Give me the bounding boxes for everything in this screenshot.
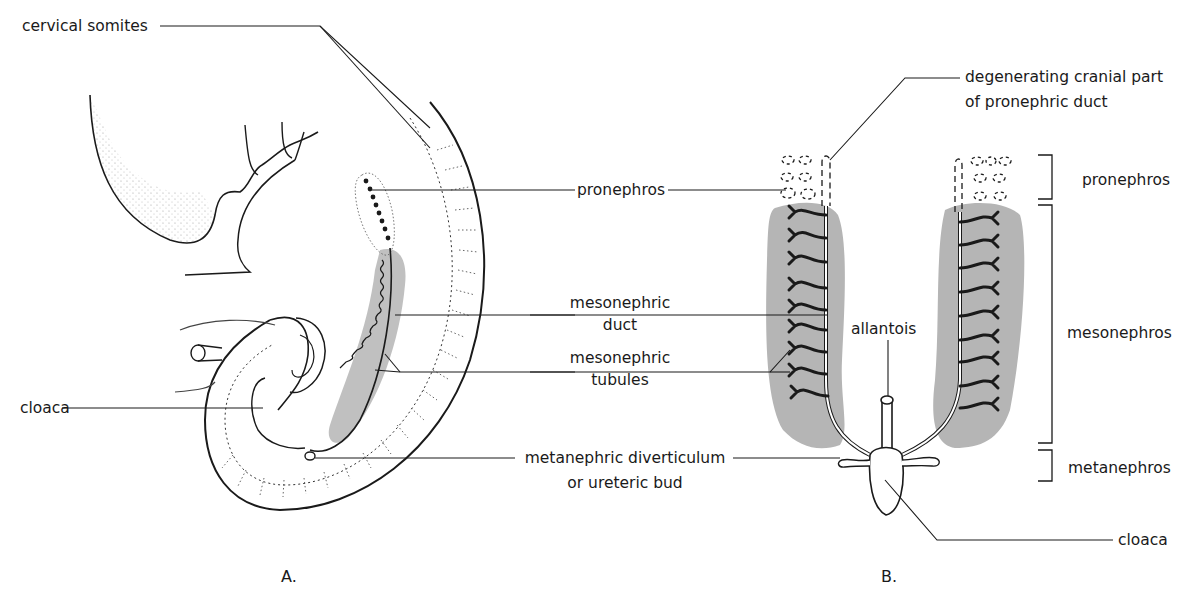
label-cervical-somites: cervical somites bbox=[22, 15, 148, 37]
label-pronephros-right: pronephros bbox=[1082, 169, 1170, 191]
bracket-metanephros bbox=[1038, 450, 1052, 481]
bracket-pronephros bbox=[1038, 155, 1052, 199]
allantois-b bbox=[882, 402, 892, 448]
bracket-mesonephros bbox=[1038, 205, 1052, 443]
metanephric-bud-left bbox=[838, 459, 870, 467]
region-brackets bbox=[1038, 155, 1052, 481]
pronephric-duct-dashed bbox=[822, 156, 962, 212]
pronephros-vesicles bbox=[781, 156, 1011, 200]
label-degenerating-pronephric-duct: degenerating cranial part of pronephric … bbox=[965, 66, 1163, 113]
dorsal-outline bbox=[205, 102, 484, 510]
pharyngeal-arch-2 bbox=[282, 122, 292, 158]
leader-lines-a bbox=[62, 26, 575, 458]
pharyngeal-arch-1 bbox=[245, 125, 258, 175]
label-mesonephric-tubules: mesonephric tubules bbox=[568, 347, 672, 391]
tail-coil-inner bbox=[292, 335, 314, 377]
label-pronephros-center: pronephros bbox=[577, 179, 665, 201]
pharyngeal-arch-3 bbox=[295, 132, 304, 160]
label-allantois: allantois bbox=[851, 318, 916, 340]
pronephros-dots-a bbox=[364, 179, 391, 241]
allantois-stalk-a bbox=[191, 345, 205, 361]
panel-caption-a: A. bbox=[281, 567, 297, 586]
label-metanephric-diverticulum: metanephric diverticulum or ureteric bud bbox=[517, 447, 733, 494]
ventral-outline bbox=[270, 317, 308, 410]
mesonephros-shading-a bbox=[329, 249, 406, 443]
label-mesonephros-right: mesonephros bbox=[1067, 322, 1172, 344]
metanephric-bud-right bbox=[902, 457, 939, 466]
allantois-tip bbox=[881, 396, 893, 404]
pronephros-outline-a bbox=[355, 173, 394, 255]
cloaca-a-shape bbox=[252, 378, 305, 448]
label-cloaca-a: cloaca bbox=[20, 397, 70, 419]
cervical-somites bbox=[222, 145, 478, 497]
label-mesonephric-duct: mesonephric duct bbox=[568, 292, 672, 336]
head-stipple bbox=[90, 95, 215, 243]
panel-caption-b: B. bbox=[881, 567, 897, 586]
label-metanephros-right: metanephros bbox=[1068, 457, 1171, 479]
label-cloaca-b: cloaca bbox=[1118, 529, 1168, 551]
panel-a-embryo bbox=[90, 95, 484, 510]
metanephric-bud-a bbox=[305, 452, 315, 460]
